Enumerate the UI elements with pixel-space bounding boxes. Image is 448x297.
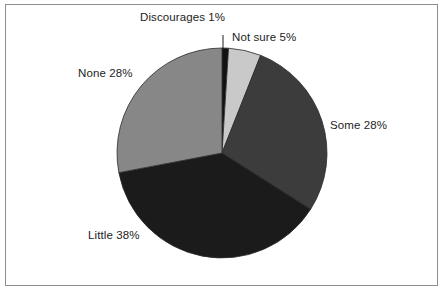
slice-label-notsure: Not sure 5% (232, 31, 296, 43)
pie-chart-svg (0, 0, 448, 297)
slice-label-none-text: None 28% (78, 67, 133, 79)
pie-slice-group (117, 48, 327, 258)
slice-label-notsure-text: Not sure 5% (232, 31, 296, 43)
chart-area: Discourages 1% Not sure 5% Some 28% Litt… (0, 0, 448, 297)
slice-label-none: None 28% (78, 67, 133, 79)
slice-label-little-text: Little 38% (88, 229, 140, 241)
slice-label-some: Some 28% (330, 119, 387, 131)
slice-label-little: Little 38% (88, 229, 140, 241)
pie-slice-none (117, 48, 222, 173)
slice-label-discourages: Discourages 1% (140, 11, 225, 23)
slice-label-discourages-text: Discourages 1% (140, 11, 225, 23)
pie-chart-figure: Discourages 1% Not sure 5% Some 28% Litt… (0, 0, 448, 297)
slice-label-some-text: Some 28% (330, 119, 387, 131)
